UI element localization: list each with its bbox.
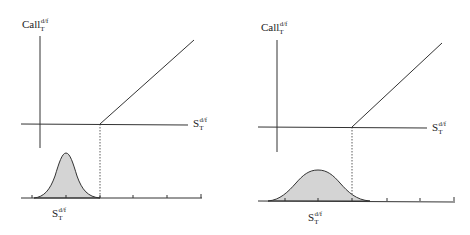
label-sub: T (199, 124, 203, 132)
left-dist-x-label: STd/f (52, 207, 66, 222)
right-distribution-chart (258, 170, 455, 202)
right-payoff-line (352, 43, 442, 127)
label-main: Call (22, 18, 40, 30)
label-sup: d/f (314, 210, 322, 218)
right-payoff-y-label: CallTd/f (261, 21, 287, 36)
left-payoff-chart (21, 36, 194, 198)
label-sup: d/f (280, 20, 288, 28)
label-sub: T (438, 128, 442, 136)
right-dist-x-label: STd/f (308, 211, 322, 226)
label-sup: d/f (58, 206, 66, 214)
label-sub: T (279, 28, 283, 36)
right-payoff-chart (258, 40, 442, 201)
left-density-curve (34, 153, 100, 198)
label-sub: T (314, 218, 318, 226)
diagram-canvas (0, 0, 470, 235)
left-distribution-chart (21, 153, 202, 198)
label-main: Call (261, 21, 279, 33)
right-payoff-x-label: STd/f (432, 121, 446, 136)
label-sub: T (58, 214, 62, 222)
right-payoff-x-axis (258, 127, 427, 128)
left-payoff-y-label: CallTd/f (22, 18, 48, 33)
left-payoff-x-label: STd/f (193, 117, 207, 132)
label-sup: d/f (438, 120, 446, 128)
label-sup: d/f (199, 116, 207, 124)
left-payoff-x-axis (21, 124, 188, 125)
right-dist-baseline (258, 201, 455, 202)
left-payoff-line (100, 40, 194, 124)
label-sup: d/f (41, 17, 49, 25)
label-sub: T (40, 25, 44, 33)
right-density-curve (268, 170, 370, 201)
